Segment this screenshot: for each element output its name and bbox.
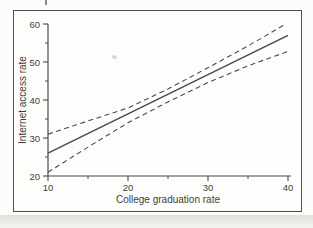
plot-area: 102030402030405060 — [29, 19, 293, 194]
fitted-regression-line — [48, 35, 288, 153]
x-tick-label: 10 — [43, 182, 54, 193]
scanned-figure-page: 102030402030405060 College graduation ra… — [0, 0, 313, 228]
y-axis-label: Internet access rate — [17, 56, 28, 144]
scan-artifact-mark — [45, 0, 47, 5]
y-tick-label: 40 — [29, 95, 40, 106]
lower-confidence-band — [48, 51, 288, 172]
x-tick-label: 20 — [123, 182, 134, 193]
scan-artifact-smudge — [112, 55, 117, 59]
y-tick-label: 50 — [29, 57, 40, 68]
page-shadow — [0, 215, 313, 228]
x-tick-label: 40 — [283, 182, 294, 193]
chart: 102030402030405060 College graduation ra… — [0, 0, 313, 228]
x-axis-label: College graduation rate — [116, 194, 220, 205]
upper-confidence-band — [48, 25, 284, 134]
y-tick-label: 30 — [29, 133, 40, 144]
y-tick-label: 60 — [29, 19, 40, 30]
y-tick-label: 20 — [29, 171, 40, 182]
x-tick-label: 30 — [203, 182, 214, 193]
